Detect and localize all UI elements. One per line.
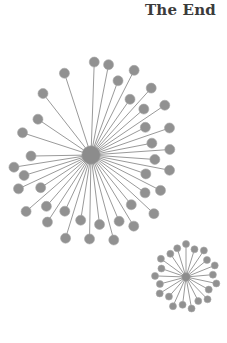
graph-edge — [38, 119, 91, 155]
graph-node — [129, 65, 139, 75]
graph-node — [95, 219, 105, 229]
graph-node — [150, 154, 160, 164]
graph-node — [141, 169, 151, 179]
graph-node — [211, 262, 218, 269]
graph-node — [60, 206, 70, 216]
graph-node — [169, 303, 176, 310]
graph-node — [205, 286, 212, 293]
graph-node — [165, 165, 175, 175]
graph-node — [76, 215, 86, 225]
graph-edge — [177, 248, 186, 277]
graph-node — [85, 234, 95, 244]
graph-node — [125, 94, 135, 104]
graph-node — [191, 246, 198, 253]
graph-node — [41, 201, 51, 211]
graph-edge — [66, 155, 91, 238]
graph-edge — [90, 155, 91, 239]
graph-node — [61, 233, 71, 243]
graph-node — [38, 89, 48, 99]
graph-node — [140, 188, 150, 198]
graph-node — [183, 241, 190, 248]
graph-node — [158, 265, 165, 272]
graph-node — [89, 57, 99, 67]
graph-node — [164, 123, 174, 133]
graph-node — [174, 245, 181, 252]
graph-node — [113, 76, 123, 86]
graph-edge — [64, 73, 91, 155]
graph-node — [36, 183, 46, 193]
graph-node — [9, 162, 19, 172]
graph-node — [203, 257, 210, 264]
graph-node — [42, 217, 52, 227]
graph-edge — [155, 276, 186, 277]
graph-node — [165, 144, 175, 154]
graph-node — [14, 184, 24, 194]
page-canvas: The End — [0, 0, 227, 343]
graph-node — [147, 138, 157, 148]
graph-node — [140, 122, 150, 132]
graph-node — [209, 271, 216, 278]
graph-node — [195, 298, 202, 305]
graph-node — [146, 83, 156, 93]
graph-node — [59, 68, 69, 78]
radial-network-graphs — [0, 0, 227, 343]
graph-hub-node — [182, 273, 190, 281]
graph-node — [26, 151, 36, 161]
graph-node — [18, 128, 28, 138]
graph-node — [204, 296, 211, 303]
graph-edge — [91, 155, 154, 214]
graph-node — [179, 301, 186, 308]
graph-node — [19, 170, 29, 180]
graph-node — [149, 209, 159, 219]
graph-node — [129, 221, 139, 231]
graph-node — [156, 280, 163, 287]
graph-node — [104, 60, 114, 70]
graph-edge — [43, 94, 91, 155]
graph-node — [156, 185, 166, 195]
graph-node — [139, 104, 149, 114]
graph-node — [188, 305, 195, 312]
graph-node — [114, 216, 124, 226]
graph-hub-node — [82, 146, 100, 164]
graph-node — [21, 206, 31, 216]
graph-node — [126, 200, 136, 210]
graph-node — [213, 280, 220, 287]
graph-node — [200, 247, 207, 254]
graph-node — [33, 114, 43, 124]
graph-node — [167, 250, 174, 257]
graph-node — [152, 272, 159, 279]
graph-node — [157, 255, 164, 262]
graph-node — [109, 235, 119, 245]
graph-node — [165, 293, 172, 300]
graph-node — [160, 100, 170, 110]
graph-node — [156, 290, 163, 297]
